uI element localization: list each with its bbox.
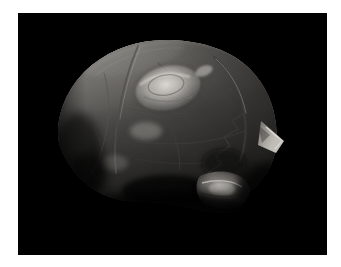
cranium-photograph-canvas [18,13,327,255]
photograph [18,13,327,255]
right-shadow [236,163,304,223]
page-root: Fossil hominin cranium, left lateral vie… [0,0,341,267]
under-shadow [82,191,254,235]
parietal-sheen [130,122,162,140]
left-shadow [52,113,104,213]
